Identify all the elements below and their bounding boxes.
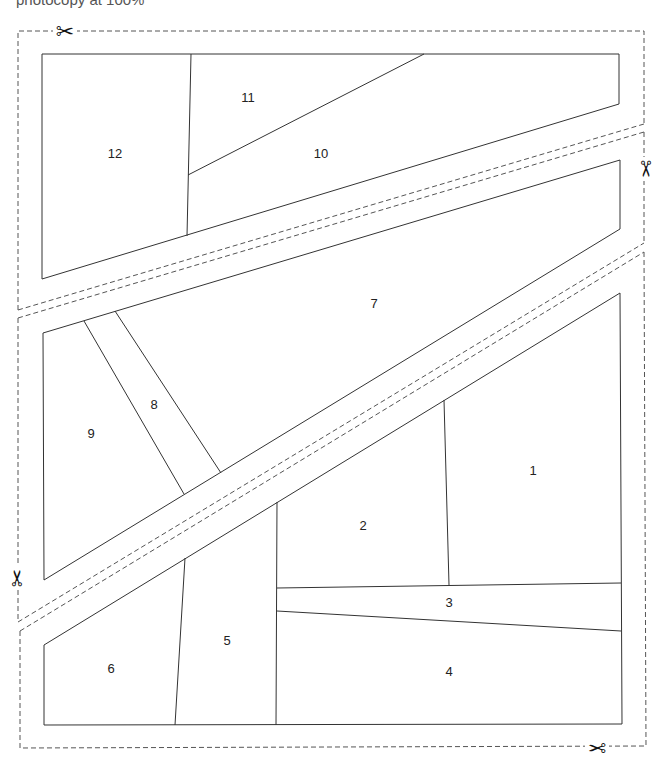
- section-top: [42, 54, 619, 279]
- scissors-icon-bottom: ✂: [588, 735, 606, 760]
- piece-label-10: 10: [314, 146, 328, 161]
- seam-3-4: [277, 611, 621, 631]
- piece-label-12: 12: [108, 146, 122, 161]
- piece-label-5: 5: [223, 633, 230, 648]
- piece-label-4: 4: [445, 664, 452, 679]
- piece-label-2: 2: [359, 518, 366, 533]
- section-bottom: [44, 293, 622, 725]
- cut-line-diagonal-2a: [18, 243, 644, 622]
- seam-5-right: [276, 502, 277, 725]
- piece-label-3: 3: [445, 595, 452, 610]
- cut-lines: [18, 31, 646, 748]
- seam-6-5: [175, 558, 185, 725]
- seam-8-7: [115, 311, 221, 473]
- piece-label-7: 7: [370, 296, 377, 311]
- cut-line-top-section: [18, 31, 644, 310]
- seam-9-8: [84, 321, 184, 494]
- section-middle: [43, 160, 620, 580]
- section-bottom-outline: [44, 293, 622, 725]
- seam-12: [187, 54, 191, 236]
- piece-label-1: 1: [529, 463, 536, 478]
- piece-label-6: 6: [107, 661, 114, 676]
- seam-11-10: [188, 54, 424, 175]
- scissors-icon-left: ✂: [5, 569, 30, 587]
- scissors-icon-top: ✂: [56, 19, 74, 44]
- piece-label-9: 9: [87, 426, 94, 441]
- scissors-icon-right: ✂: [633, 160, 658, 178]
- scissors-icons: ✂ ✂ ✂ ✂: [5, 19, 658, 760]
- section-middle-outline: [43, 160, 620, 580]
- foundation-pattern: 1 2 3 4 5 6 7 8 9 10 11 12 ✂ ✂ ✂ ✂: [0, 0, 666, 766]
- cut-line-diagonal-2b: [20, 252, 644, 631]
- seam-2-1: [444, 400, 449, 585]
- section-top-outline: [42, 54, 619, 279]
- piece-label-8: 8: [150, 397, 157, 412]
- piece-label-11: 11: [241, 90, 255, 105]
